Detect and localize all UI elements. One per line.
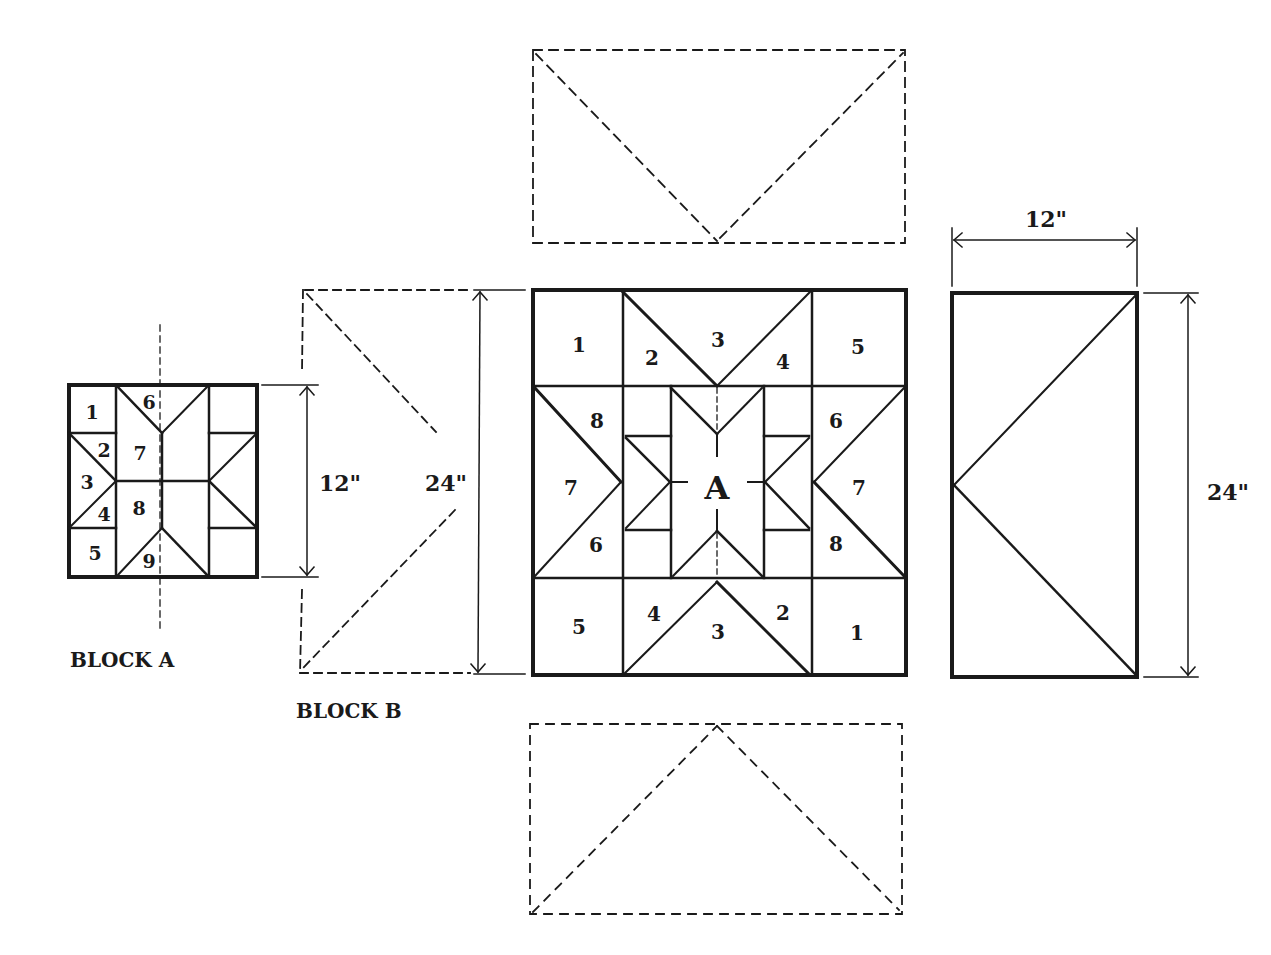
top-dashed-panel <box>533 50 905 243</box>
block-a-dimension-label: 12" <box>319 470 361 496</box>
block-a-title: BLOCK A <box>70 648 175 672</box>
side-panel-width-label: 12" <box>1025 206 1067 232</box>
block-a-diagram <box>69 325 318 630</box>
main-bottom-piece-4: 4 <box>647 602 661 626</box>
block-b-title: BLOCK B <box>296 699 402 723</box>
main-bottom-piece-3: 3 <box>711 620 725 644</box>
side-panel-height-label: 24" <box>1207 479 1249 505</box>
block-b-dimension <box>471 290 525 674</box>
side-panel <box>952 228 1198 677</box>
block-a-piece-2: 2 <box>97 439 110 461</box>
main-top-piece-1: 1 <box>572 333 586 357</box>
block-a-piece-3: 3 <box>80 471 93 493</box>
main-bottom-piece-2: 2 <box>776 601 790 625</box>
main-right-piece-6: 6 <box>829 409 843 433</box>
main-right-piece-7: 7 <box>852 476 866 500</box>
block-a-piece-7: 7 <box>133 442 146 464</box>
main-bottom-piece-5: 5 <box>572 615 586 639</box>
quilt-diagram: 1 2 3 4 5 6 7 8 9 12" BLOCK A 24" BLOCK … <box>0 0 1271 955</box>
main-top-piece-3: 3 <box>711 328 725 352</box>
block-a-piece-5: 5 <box>88 542 101 564</box>
labels: 1 2 3 4 5 6 7 8 9 12" BLOCK A 24" BLOCK … <box>70 206 1249 723</box>
block-a-piece-6: 6 <box>142 391 155 413</box>
main-top-piece-5: 5 <box>851 335 865 359</box>
main-left-piece-6: 6 <box>589 533 603 557</box>
block-a-piece-4: 4 <box>97 503 110 525</box>
block-a-piece-8: 8 <box>132 497 145 519</box>
bottom-dashed-panel <box>530 724 902 914</box>
main-bottom-piece-1: 1 <box>850 621 864 645</box>
main-top-piece-4: 4 <box>776 350 790 374</box>
block-b-dimension-label: 24" <box>425 470 467 496</box>
main-center-label: A <box>704 469 731 507</box>
main-top-piece-2: 2 <box>645 346 659 370</box>
main-left-piece-7: 7 <box>564 476 578 500</box>
block-a-piece-1: 1 <box>85 401 98 423</box>
block-a-piece-9: 9 <box>142 550 155 572</box>
main-right-piece-8: 8 <box>829 532 843 556</box>
main-left-piece-8: 8 <box>590 409 604 433</box>
